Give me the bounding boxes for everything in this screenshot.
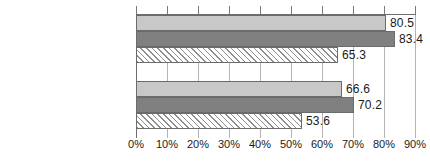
top-tick-90 xyxy=(415,6,416,14)
top-tick-80 xyxy=(384,6,385,14)
bar-value-cat0-series2: 65.3 xyxy=(342,47,366,63)
top-tick-70 xyxy=(353,6,354,14)
bar-value-cat1-series2: 53.6 xyxy=(306,113,330,129)
bar-cat1-series1 xyxy=(136,97,354,113)
top-tick-0 xyxy=(136,6,137,14)
top-tick-10 xyxy=(167,6,168,14)
bar-chart: 80.5 83.4 65.3 事実関係の迅速かつ正確な確認 66.6 70.2 … xyxy=(0,0,430,163)
bar-cat0-series0 xyxy=(136,15,386,31)
bar-cat1-series0 xyxy=(136,81,342,97)
top-tick-40 xyxy=(260,6,261,14)
bar-cat0-series1 xyxy=(136,31,395,47)
top-tick-50 xyxy=(291,6,292,14)
bar-value-cat1-series1: 70.2 xyxy=(358,97,382,113)
bar-value-cat1-series0: 66.6 xyxy=(346,81,370,97)
top-tick-30 xyxy=(229,6,230,14)
bar-value-cat0-series0: 80.5 xyxy=(390,15,414,31)
bar-value-cat0-series1: 83.4 xyxy=(399,31,423,47)
x-tick-label-9: 90% xyxy=(395,138,430,150)
bar-cat1-series2 xyxy=(136,113,302,129)
top-tick-60 xyxy=(322,6,323,14)
bar-cat0-series2 xyxy=(136,47,338,63)
top-tick-20 xyxy=(198,6,199,14)
